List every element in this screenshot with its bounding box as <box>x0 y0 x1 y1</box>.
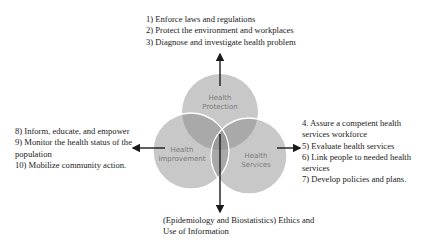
list-item: 1) Enforce laws and regulations <box>146 14 296 25</box>
protection-label-1: Health <box>209 94 232 102</box>
core-functions-text: (Epidemiology and Biostatistics) Ethics … <box>163 215 314 238</box>
list-item: 5) Evaluate health services <box>302 141 411 152</box>
health-services-list: 4. Assure a competent health services wo… <box>302 118 411 186</box>
services-label-1: Health <box>245 152 268 160</box>
list-item: population <box>15 149 132 160</box>
services-label-2: Services <box>241 161 271 169</box>
list-item: 8) Inform, educate, and empower <box>15 126 132 137</box>
text-line: (Epidemiology and Biostatistics) Ethics … <box>163 215 314 226</box>
improvement-label-2: Improvement <box>158 155 205 163</box>
list-item: 2) Protect the environment and workplace… <box>146 25 296 36</box>
list-item: services workforce <box>302 129 411 140</box>
list-item: 9) Monitor the health status of the <box>15 137 132 148</box>
health-protection-services-list: 1) Enforce laws and regulations 2) Prote… <box>146 14 296 48</box>
list-item: services <box>302 163 411 174</box>
protection-label-2: Protection <box>202 103 237 111</box>
list-item: 6) Link people to needed health <box>302 152 411 163</box>
improvement-label-1: Health <box>171 146 194 154</box>
list-item: 3) Diagnose and investigate health probl… <box>146 37 296 48</box>
list-item: 4. Assure a competent health <box>302 118 411 129</box>
list-item: 10) Mobilize community action. <box>15 160 132 171</box>
text-line: Use of Information <box>163 226 314 237</box>
list-item: 7) Develop policies and plans. <box>302 174 411 185</box>
health-improvement-services-list: 8) Inform, educate, and empower 9) Monit… <box>15 126 132 171</box>
